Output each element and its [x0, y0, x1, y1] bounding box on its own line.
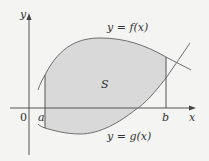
- bound-a-label: a: [38, 111, 45, 124]
- x-axis-arrow-icon: [189, 106, 196, 111]
- y-axis-arrow-icon: [27, 13, 32, 20]
- lower-curve-label: y = g(x): [106, 130, 151, 143]
- region-s-label: S: [101, 78, 109, 91]
- bound-b-label: b: [162, 111, 169, 124]
- x-axis-label: x: [189, 111, 196, 124]
- origin-label: 0: [20, 111, 27, 124]
- y-axis-label: y: [19, 8, 27, 21]
- upper-curve-label: y = f(x): [106, 21, 148, 34]
- area-between-curves-diagram: y x 0 a b S y = f(x) y = g(x): [0, 0, 209, 161]
